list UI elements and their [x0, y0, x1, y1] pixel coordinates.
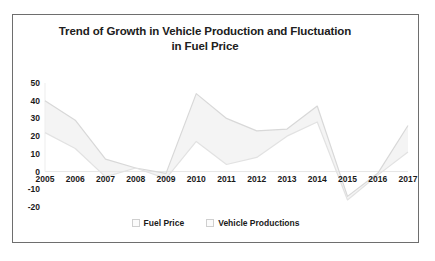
series-band — [45, 94, 408, 200]
x-tick-label: 2008 — [126, 174, 145, 184]
y-tick-label: 10 — [31, 149, 41, 159]
x-axis-tick-labels: 2005200620072008200920102011201220132014… — [36, 174, 418, 184]
x-tick-label: 2012 — [247, 174, 266, 184]
x-tick-label: 2006 — [66, 174, 85, 184]
y-tick-label: 20 — [31, 131, 41, 141]
x-tick-label: 2007 — [96, 174, 115, 184]
x-tick-label: 2016 — [368, 174, 387, 184]
x-tick-label: 2015 — [338, 174, 357, 184]
x-tick-label: 2013 — [278, 174, 297, 184]
y-axis-tick-labels: 50403020100-10-20 — [28, 78, 41, 212]
chart-legend: Fuel Price Vehicle Productions — [12, 218, 419, 228]
y-tick-label: 40 — [31, 96, 41, 106]
y-tick-label: 30 — [31, 113, 41, 123]
y-tick-label: -20 — [28, 202, 41, 212]
x-tick-label: 2017 — [399, 174, 418, 184]
legend-item-vehicle-productions[interactable]: Vehicle Productions — [206, 218, 299, 228]
legend-swatch-vehicle-productions — [206, 219, 214, 227]
y-tick-label: 50 — [31, 78, 41, 88]
x-tick-label: 2011 — [217, 174, 236, 184]
line-chart-svg: 50403020100-10-20 2005200620072008200920… — [12, 14, 419, 243]
legend-swatch-fuel-price — [132, 219, 140, 227]
legend-item-fuel-price[interactable]: Fuel Price — [132, 218, 185, 228]
x-tick-label: 2010 — [187, 174, 206, 184]
x-tick-label: 2005 — [36, 174, 55, 184]
legend-label-vehicle-productions: Vehicle Productions — [218, 218, 299, 228]
plot-area: 50403020100-10-20 2005200620072008200920… — [12, 14, 419, 243]
x-tick-label: 2009 — [157, 174, 176, 184]
y-tick-label: -10 — [28, 184, 41, 194]
x-tick-label: 2014 — [308, 174, 327, 184]
legend-label-fuel-price: Fuel Price — [144, 218, 185, 228]
